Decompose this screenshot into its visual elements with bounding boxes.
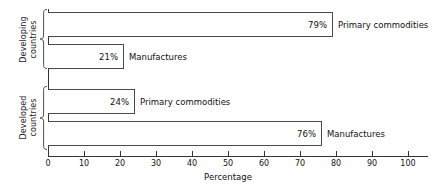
bar-label-developing-primary-commodities: Primary commodities — [338, 20, 428, 30]
x-tick-20 — [120, 151, 121, 157]
x-tick-30 — [156, 151, 157, 157]
x-tick-80 — [336, 151, 337, 157]
x-tick-label-80: 80 — [321, 159, 351, 168]
bar-value-developing-manufactures: 21% — [74, 52, 118, 62]
x-tick-40 — [192, 151, 193, 157]
x-tick-label-0: 0 — [33, 159, 63, 168]
x-tick-100 — [408, 151, 409, 157]
x-tick-label-50: 50 — [213, 159, 243, 168]
bar-value-developed-primary-commodities: 24% — [85, 97, 129, 107]
x-tick-label-60: 60 — [249, 159, 279, 168]
bar-value-developing-primary-commodities: 79% — [283, 20, 327, 30]
x-tick-60 — [264, 151, 265, 157]
bar-label-developed-primary-commodities: Primary commodities — [140, 97, 230, 107]
bar-label-developed-manufactures: Manufactures — [327, 129, 385, 139]
x-tick-0 — [48, 151, 49, 157]
x-tick-label-40: 40 — [177, 159, 207, 168]
x-tick-70 — [300, 151, 301, 157]
x-tick-10 — [84, 151, 85, 157]
x-tick-label-100: 100 — [393, 159, 423, 168]
bar-value-developed-manufactures: 76% — [272, 129, 316, 139]
x-axis-line — [48, 156, 428, 157]
plot-area: 79% Primary commodities 21% Manufactures… — [0, 0, 443, 189]
x-tick-label-20: 20 — [105, 159, 135, 168]
x-axis-title: Percentage — [178, 172, 278, 182]
x-tick-label-10: 10 — [69, 159, 99, 168]
x-tick-label-30: 30 — [141, 159, 171, 168]
bar-label-developing-manufactures: Manufactures — [129, 52, 187, 62]
x-tick-90 — [372, 151, 373, 157]
horizontal-bar-chart: Developing countries Developed countries… — [0, 0, 443, 189]
x-tick-label-70: 70 — [285, 159, 315, 168]
x-tick-50 — [228, 151, 229, 157]
x-tick-label-90: 90 — [357, 159, 387, 168]
